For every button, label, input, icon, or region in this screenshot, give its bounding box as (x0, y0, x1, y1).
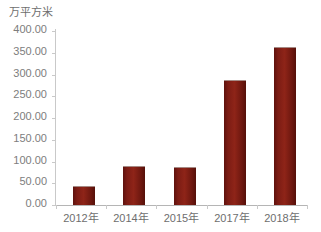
x-tick-mark (307, 205, 308, 209)
bar-2015 (174, 167, 196, 205)
plot-area (56, 31, 308, 205)
bar-2018 (274, 47, 296, 205)
bar-chart: 万平方米 400.00 350.00 300.00 250.00 200.00 … (0, 0, 321, 232)
x-tick-mark (257, 205, 258, 209)
y-tick-label: 350.00 (13, 45, 47, 58)
y-tick-label: 400.00 (13, 23, 47, 36)
x-label-2018: 2018年 (257, 211, 307, 225)
x-label-2015: 2015年 (156, 211, 207, 225)
y-tick-label: 250.00 (13, 88, 47, 101)
bar-2012 (73, 186, 95, 205)
y-tick-label: 300.00 (13, 67, 47, 80)
x-label-2014: 2014年 (106, 211, 156, 225)
y-tick-label: 150.00 (13, 132, 47, 145)
y-axis-unit-label: 万平方米 (9, 6, 53, 19)
x-tick-mark (207, 205, 208, 209)
x-label-2012: 2012年 (56, 211, 106, 225)
x-axis-line (55, 205, 308, 206)
bar-2014 (123, 166, 145, 205)
x-tick-mark (156, 205, 157, 209)
x-label-2017: 2017年 (207, 211, 257, 225)
x-tick-mark (56, 205, 57, 209)
bar-2017 (224, 80, 246, 205)
y-tick-label: 0.00 (26, 197, 47, 210)
x-tick-mark (106, 205, 107, 209)
y-tick-label: 50.00 (19, 175, 47, 188)
y-tick-label: 100.00 (13, 154, 47, 167)
y-tick-label: 200.00 (13, 110, 47, 123)
